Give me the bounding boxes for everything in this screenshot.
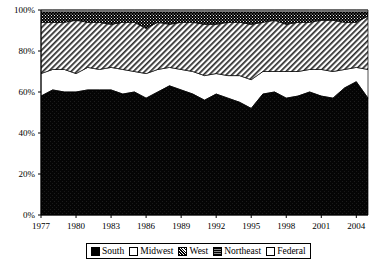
y-axis-ticks: 0%20%40%60%80%100% bbox=[14, 5, 41, 220]
y-axis-label: 0% bbox=[23, 210, 36, 220]
x-axis-label: 1998 bbox=[277, 221, 296, 231]
y-axis-label: 20% bbox=[19, 169, 36, 179]
legend-swatch-south bbox=[91, 247, 100, 256]
x-axis-label: 1980 bbox=[67, 221, 86, 231]
legend-label: South bbox=[102, 245, 124, 257]
legend-label: West bbox=[189, 245, 208, 257]
legend-item-federal[interactable]: Federal bbox=[266, 245, 306, 257]
legend-swatch-west bbox=[178, 247, 187, 256]
area-series-group bbox=[41, 10, 368, 215]
x-axis-label: 1992 bbox=[207, 221, 225, 231]
area-series-south bbox=[41, 82, 368, 215]
y-axis-label: 100% bbox=[14, 5, 36, 15]
y-axis-label: 80% bbox=[19, 46, 36, 56]
y-axis-label: 60% bbox=[19, 87, 36, 97]
x-axis-label: 1986 bbox=[137, 221, 156, 231]
legend-item-northeast[interactable]: Northeast bbox=[213, 245, 261, 257]
legend-swatch-federal bbox=[266, 247, 275, 256]
chart-canvas: 0%20%40%60%80%100% 197719801983198619891… bbox=[0, 0, 382, 267]
x-axis-label: 1995 bbox=[242, 221, 261, 231]
x-axis-label: 2004 bbox=[347, 221, 366, 231]
x-axis-label: 2001 bbox=[312, 221, 330, 231]
y-axis-label: 40% bbox=[19, 128, 36, 138]
legend-label: Midwest bbox=[140, 245, 173, 257]
x-axis-label: 1977 bbox=[32, 221, 51, 231]
stacked-area-chart: 0%20%40%60%80%100% 197719801983198619891… bbox=[0, 0, 382, 267]
chart-legend: SouthMidwestWestNortheastFederal bbox=[86, 243, 311, 259]
legend-item-south[interactable]: South bbox=[91, 245, 124, 257]
legend-label: Northeast bbox=[224, 245, 261, 257]
x-axis-label: 1989 bbox=[172, 221, 191, 231]
legend-label: Federal bbox=[277, 245, 306, 257]
x-axis-label: 1983 bbox=[102, 221, 121, 231]
legend-item-midwest[interactable]: Midwest bbox=[129, 245, 173, 257]
legend-swatch-midwest bbox=[129, 247, 138, 256]
x-axis-ticks: 1977198019831986198919921995199820012004 bbox=[32, 215, 366, 231]
legend-swatch-northeast bbox=[213, 247, 222, 256]
legend-item-west[interactable]: West bbox=[178, 245, 208, 257]
